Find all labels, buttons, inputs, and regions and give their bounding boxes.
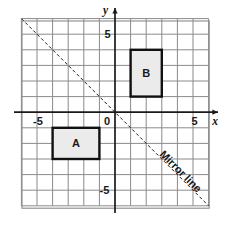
y-axis-label: y xyxy=(101,4,109,17)
y-tick-label-pos5: 5 xyxy=(104,28,110,40)
x-tick-label-pos5: 5 xyxy=(191,115,197,127)
shape-a-label: A xyxy=(72,137,80,149)
shape-b-label: B xyxy=(142,67,150,79)
origin-label: 0 xyxy=(104,115,110,127)
grid-canvas: A B x y 0 -5 5 5 -5 Mirror line xyxy=(0,0,228,225)
x-tick-label-neg5: -5 xyxy=(33,115,43,127)
shape-a: A xyxy=(53,128,100,159)
x-axis-label: x xyxy=(211,115,218,127)
y-axis-arrowhead xyxy=(112,8,117,14)
shape-b: B xyxy=(131,50,162,97)
y-tick-label-neg5: -5 xyxy=(100,184,110,196)
coordinate-grid-figure: A B x y 0 -5 5 5 -5 Mirror line xyxy=(0,0,228,225)
